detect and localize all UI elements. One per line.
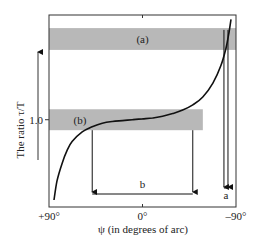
x-tick-label-0: +90° (38, 210, 60, 222)
y-tick-label-0: 1.0 (29, 114, 43, 126)
interval-a-label: a (224, 189, 229, 201)
x-tick-label-1: 0° (138, 210, 148, 222)
interval-b-label: b (140, 178, 146, 190)
band-label-0: (a) (136, 33, 149, 46)
band-label-1: (b) (74, 114, 87, 127)
x-tick-label-2: –90° (225, 210, 247, 222)
chart: +90°0°–90°1.0 ba (a)(b) The ratio τ/T ψ … (0, 0, 256, 249)
y-axis-label: The ratio τ/T (14, 101, 26, 158)
x-axis-label: ψ (in degrees of arc) (98, 223, 188, 236)
